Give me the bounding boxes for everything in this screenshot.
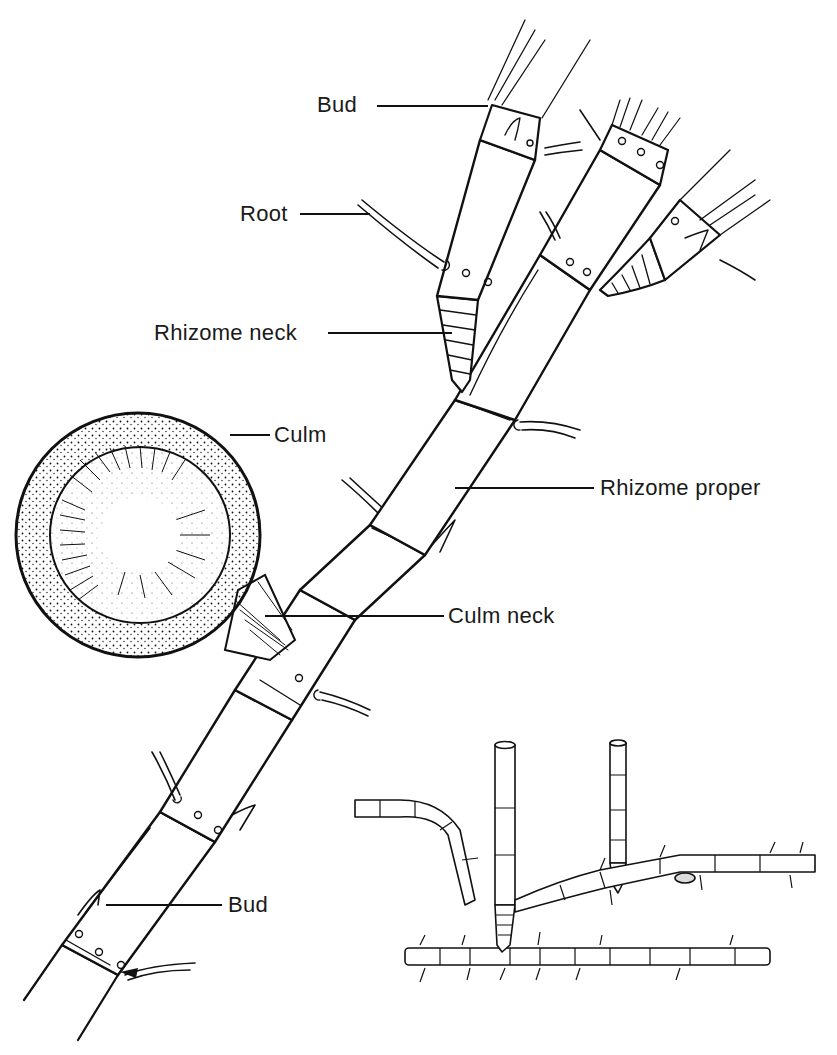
rhizome-illustration — [0, 0, 837, 1055]
diagram-canvas: Bud Root Rhizome neck Culm Rhizome prope… — [0, 0, 837, 1055]
label-rhizome-proper: Rhizome proper — [600, 477, 761, 499]
label-culm: Culm — [274, 424, 327, 446]
label-root: Root — [240, 203, 288, 225]
label-rhizome-neck: Rhizome neck — [154, 322, 297, 344]
label-bud-bottom: Bud — [228, 894, 268, 916]
inset-rhizome-system — [355, 740, 815, 982]
label-culm-neck: Culm neck — [448, 605, 555, 627]
label-bud-top: Bud — [317, 94, 357, 116]
culm-cross-section — [16, 413, 295, 660]
